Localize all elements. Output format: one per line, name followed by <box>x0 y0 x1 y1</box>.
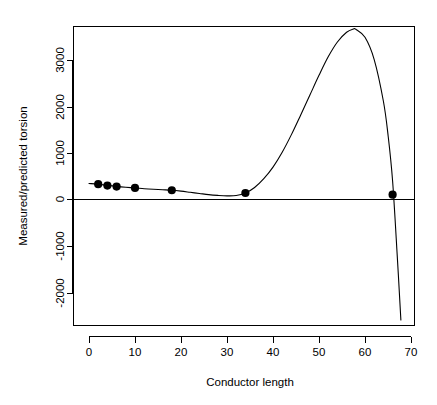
y-tick-label-1000: 1000 <box>54 140 66 166</box>
y-tick-label-2000: 2000 <box>54 94 66 120</box>
y-tick-label-minus1000: -1000 <box>54 231 66 260</box>
x-tick-label-0: 0 <box>86 346 92 358</box>
x-tick-label-20: 20 <box>175 346 188 358</box>
x-axis-tick-labels: 0 10 20 30 40 50 60 70 <box>86 346 418 358</box>
x-tick-label-40: 40 <box>267 346 280 358</box>
data-point <box>168 186 176 194</box>
data-point <box>113 182 121 190</box>
y-axis-title: Measured/predicted torsion <box>17 106 29 245</box>
data-point <box>94 180 102 188</box>
fitted-curve-line <box>89 28 401 320</box>
x-tick-label-50: 50 <box>313 346 326 358</box>
x-tick-label-30: 30 <box>221 346 234 358</box>
x-tick-label-10: 10 <box>129 346 142 358</box>
x-tick-label-60: 60 <box>359 346 372 358</box>
torsion-scatter-plot: 3000 2000 1000 0 -1000 -2000 Measured/pr… <box>0 0 437 405</box>
data-point <box>131 184 139 192</box>
x-axis-ticks <box>90 337 412 343</box>
plot-frame <box>74 27 415 326</box>
y-tick-label-0: 0 <box>54 196 66 202</box>
data-point <box>389 191 397 199</box>
chart-container: 3000 2000 1000 0 -1000 -2000 Measured/pr… <box>0 0 437 405</box>
x-tick-label-70: 70 <box>405 346 418 358</box>
y-tick-label-3000: 3000 <box>54 47 66 73</box>
x-axis-title: Conductor length <box>206 376 294 388</box>
data-point <box>241 189 249 197</box>
data-points-group <box>94 180 397 199</box>
y-tick-label-minus2000: -2000 <box>54 278 66 307</box>
y-axis-tick-labels: 3000 2000 1000 0 -1000 -2000 <box>54 47 66 308</box>
y-axis-ticks <box>67 61 73 294</box>
data-point <box>103 182 111 190</box>
